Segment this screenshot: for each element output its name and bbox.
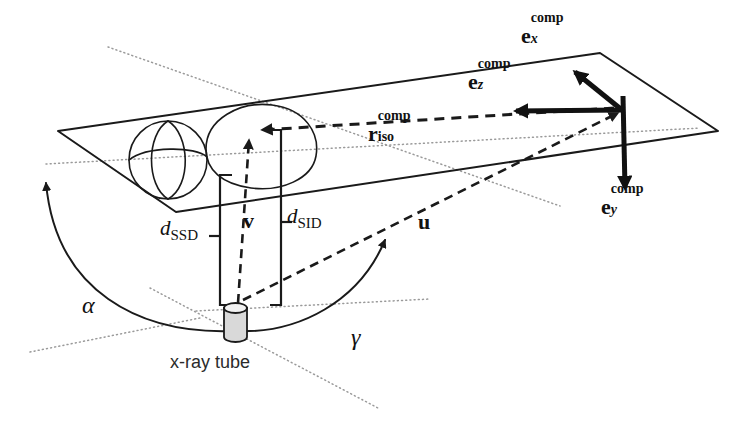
label-angle-gamma: γ [351,325,360,349]
label-r-iso-sup: comp [378,109,411,123]
patient-head [129,121,207,199]
label-d-ssd-base: d [160,216,171,240]
label-e-y-comp: ecompcompy [601,196,643,218]
label-r-iso-comp: rcompcompiso [368,123,410,145]
angle-arc-gamma [232,240,385,331]
label-e-z-comp: ecompcompz [468,71,510,93]
label-x-ray-tube: x-ray tube [170,353,250,371]
label-r-iso-sub: iso [378,130,394,144]
label-e-y-sub: y [611,203,617,217]
angle-arc-alpha [46,183,232,331]
label-e-y-base: e [601,194,611,219]
guide-line-lower-left [30,318,200,352]
label-d-sid-sub: SID [298,215,322,231]
label-r-iso-base: r [368,121,378,146]
guide-lines [30,47,700,408]
label-e-x-sub: x [531,32,538,46]
label-e-x-sup: comp [531,11,564,25]
coordinate-frame-comp [516,72,625,188]
x-ray-tube-source [224,303,247,342]
label-e-y-sup: comp [611,182,644,196]
label-e-x-comp: ecompcompx [521,25,563,47]
label-e-z-base: e [468,69,478,94]
label-d-ssd-sub: SSD [171,227,199,243]
label-d-ssd: dSSD [160,218,198,243]
label-d-sid-base: d [287,204,298,228]
figure-canvas: ecompcompx ecompcompz ecompcompy rcompco… [0,0,751,435]
label-d-sid: dSID [287,206,322,231]
label-e-x-base: e [521,23,531,48]
guide-line-descending [150,288,378,408]
bracket-d-ssd [209,175,232,305]
label-vector-u: u [418,211,430,233]
label-e-z-sub: z [478,78,483,92]
label-angle-alpha: α [82,293,95,317]
label-e-z-sup: comp [478,57,511,71]
label-vector-v: v [243,210,254,232]
